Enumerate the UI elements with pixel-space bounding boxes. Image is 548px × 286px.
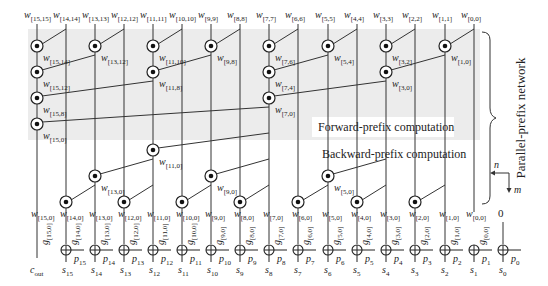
prefix-node-dot xyxy=(413,200,418,205)
p-label: p6 xyxy=(335,253,345,267)
g-label: g[10,0] xyxy=(184,223,198,245)
bottom-w-label: w[8,0] xyxy=(234,208,254,222)
bottom-w-label: w[4,0] xyxy=(351,208,371,222)
bottom-w-label: w[7,0] xyxy=(263,208,283,222)
s-label: s4 xyxy=(382,264,390,278)
prefix-link xyxy=(303,185,328,200)
parallel-prefix-adder-diagram: w[15,15]w[14,14]w[13,13]w[12,12]w[11,11]… xyxy=(0,0,548,286)
s-label: s0 xyxy=(499,264,507,278)
bottom-w-label: w[15,0] xyxy=(31,208,55,222)
g-label: g[12,0] xyxy=(126,223,140,245)
prefix-node-dot xyxy=(209,174,214,179)
p-label: p14 xyxy=(102,253,116,267)
prefix-node-dot xyxy=(238,200,243,205)
top-input-label: w[0,0] xyxy=(461,9,481,23)
g-label: g[5,0] xyxy=(330,227,344,245)
backward-prefix-label: Backward-prefix computation xyxy=(322,147,466,161)
prefix-node-dot xyxy=(35,44,40,49)
prefix-link xyxy=(216,159,269,174)
network-brace xyxy=(482,32,496,204)
s-label: s8 xyxy=(265,264,273,278)
prefix-node-dot xyxy=(151,44,156,49)
intermediate-w-label: w[5,0] xyxy=(334,182,354,196)
g-label: g[4,0] xyxy=(359,227,373,245)
s-label: s15 xyxy=(62,264,73,278)
sum-xor-stage: p15s15p14s14p13s13p12s12p11s11p10s10p9s9… xyxy=(30,245,521,278)
top-input-label: w[1,1] xyxy=(432,9,452,23)
top-input-label: w[4,4] xyxy=(344,9,364,23)
top-input-label: w[2,2] xyxy=(402,9,422,23)
p-label: p11 xyxy=(189,253,202,267)
top-input-label: w[14,14] xyxy=(53,9,80,23)
g-label: g[2,0] xyxy=(417,227,431,245)
bottom-w-label: w[1,0] xyxy=(439,208,459,222)
top-input-label: w[7,7] xyxy=(256,9,276,23)
intermediate-w-label: w[9,0] xyxy=(217,182,237,196)
prefix-node-dot xyxy=(209,44,214,49)
parallel-prefix-network-label: Parallel-prefix network xyxy=(513,57,528,178)
prefix-link xyxy=(420,185,445,200)
p-label: p2 xyxy=(452,253,462,267)
prefix-node-dot xyxy=(151,70,156,75)
p-label: p13 xyxy=(131,253,145,267)
bottom-w-label: w[3,0] xyxy=(380,208,400,222)
prefix-node-dot xyxy=(93,44,98,49)
bottom-w-label: w[10,0] xyxy=(176,208,200,222)
forward-prefix-label: Forward-prefix computation xyxy=(318,120,454,134)
p-label: p15 xyxy=(73,253,87,267)
s-label: s11 xyxy=(178,264,189,278)
prefix-node-dot xyxy=(355,200,360,205)
prefix-node-dot xyxy=(443,44,448,49)
s-label: s5 xyxy=(353,264,361,278)
prefix-node-dot xyxy=(326,44,331,49)
bottom-w-label: w[11,0] xyxy=(147,208,170,222)
prefix-node-dot xyxy=(384,44,389,49)
top-input-label: w[10,10] xyxy=(169,9,196,23)
prefix-node-dot xyxy=(122,200,127,205)
s-label: s1 xyxy=(470,264,478,278)
bottom-w-label: w[0,0] xyxy=(466,208,486,222)
g-label: g[3,0] xyxy=(388,227,402,245)
s-label: s9 xyxy=(236,264,244,278)
bottom-w-label: w[12,0] xyxy=(118,208,142,222)
g-label: g[15,0] xyxy=(39,223,53,245)
p-label: p9 xyxy=(247,253,257,267)
p-label: p0 xyxy=(510,253,520,267)
s-label: s12 xyxy=(149,264,160,278)
top-input-label: w[11,11] xyxy=(140,9,167,23)
s-label: s10 xyxy=(207,264,218,278)
g-label: g[14,0] xyxy=(68,223,82,245)
cout-label: cout xyxy=(30,264,43,278)
s-label: s14 xyxy=(91,264,102,278)
p-label: p8 xyxy=(276,253,286,267)
bottom-w-label: w[9,0] xyxy=(205,208,225,222)
prefix-link xyxy=(129,185,153,200)
zero-label: 0 xyxy=(498,207,504,219)
prefix-link xyxy=(362,185,386,200)
prefix-link xyxy=(333,159,386,174)
prefix-link xyxy=(245,185,269,200)
prefix-link xyxy=(71,185,95,200)
intermediate-w-label: w[11,0] xyxy=(159,156,182,170)
intermediate-w-label: w[13,0] xyxy=(101,182,125,196)
top-input-label: w[12,12] xyxy=(111,9,138,23)
bottom-w-label: w[6,0] xyxy=(292,208,312,222)
prefix-node-dot xyxy=(151,148,156,153)
prefix-node-dot xyxy=(64,200,69,205)
p-label: p4 xyxy=(393,253,403,267)
g-label: g[0,0] xyxy=(476,227,490,245)
axis-m-label: m xyxy=(514,184,521,195)
p-label: p7 xyxy=(305,253,315,267)
prefix-link xyxy=(100,159,153,174)
prefix-node-dot xyxy=(267,96,272,101)
prefix-node-dot xyxy=(267,44,272,49)
arrow-down-icon xyxy=(507,188,512,193)
bottom-w-label: w[13,0] xyxy=(89,208,113,222)
top-input-label: w[6,6] xyxy=(285,9,305,23)
s-label: s7 xyxy=(294,264,302,278)
s-label: s13 xyxy=(120,264,131,278)
top-input-label: w[3,3] xyxy=(373,9,393,23)
g-label: g[11,0] xyxy=(155,223,169,245)
g-label: g[9,0] xyxy=(213,227,227,245)
g-label: g[6,0] xyxy=(300,227,314,245)
